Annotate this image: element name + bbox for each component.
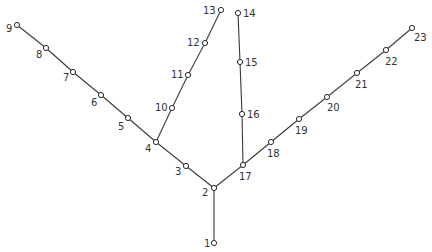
node-label-4: 4 bbox=[145, 143, 151, 154]
node-label-14: 14 bbox=[243, 8, 256, 19]
node-label-13: 13 bbox=[203, 5, 216, 16]
node-2 bbox=[211, 185, 216, 190]
edge-19-20 bbox=[299, 97, 327, 119]
node-15 bbox=[237, 59, 242, 64]
edge-17-16 bbox=[242, 114, 243, 165]
node-label-3: 3 bbox=[175, 166, 181, 177]
node-10 bbox=[169, 105, 174, 110]
edge-2-3 bbox=[186, 166, 214, 188]
node-label-6: 6 bbox=[91, 97, 97, 108]
node-13 bbox=[218, 7, 223, 12]
node-label-11: 11 bbox=[171, 69, 184, 80]
node-label-20: 20 bbox=[327, 102, 340, 113]
node-label-12: 12 bbox=[187, 37, 200, 48]
node-17 bbox=[240, 162, 245, 167]
node-12 bbox=[202, 40, 207, 45]
node-11 bbox=[185, 72, 190, 77]
edge-6-7 bbox=[73, 72, 101, 95]
node-8 bbox=[43, 45, 48, 50]
edge-20-21 bbox=[327, 73, 357, 97]
node-label-22: 22 bbox=[385, 56, 398, 67]
edge-8-9 bbox=[17, 25, 46, 48]
edge-4-5 bbox=[128, 118, 156, 142]
node-19 bbox=[296, 116, 301, 121]
node-label-23: 23 bbox=[414, 32, 427, 43]
node-6 bbox=[98, 92, 103, 97]
edge-3-4 bbox=[156, 142, 186, 166]
edge-21-22 bbox=[357, 50, 386, 73]
node-20 bbox=[324, 94, 329, 99]
node-7 bbox=[70, 69, 75, 74]
edge-layer bbox=[17, 10, 412, 243]
node-22 bbox=[383, 47, 388, 52]
edge-16-15 bbox=[240, 62, 242, 114]
node-label-15: 15 bbox=[245, 57, 258, 68]
node-5 bbox=[125, 115, 130, 120]
node-label-1: 1 bbox=[204, 238, 210, 249]
node-label-18: 18 bbox=[267, 148, 280, 159]
node-1 bbox=[211, 240, 216, 245]
node-23 bbox=[409, 25, 414, 30]
edge-7-8 bbox=[46, 48, 73, 72]
node-14 bbox=[235, 10, 240, 15]
node-9 bbox=[14, 22, 19, 27]
node-label-10: 10 bbox=[155, 102, 168, 113]
node-label-19: 19 bbox=[295, 125, 308, 136]
edge-5-6 bbox=[101, 95, 128, 118]
node-label-21: 21 bbox=[355, 79, 368, 90]
node-label-2: 2 bbox=[202, 187, 208, 198]
node-label-7: 7 bbox=[63, 72, 69, 83]
node-label-5: 5 bbox=[118, 121, 124, 132]
tree-diagram-svg: 1234567891011121314151617181920212223 bbox=[0, 0, 432, 252]
node-3 bbox=[183, 163, 188, 168]
node-label-8: 8 bbox=[36, 49, 42, 60]
node-label-16: 16 bbox=[247, 109, 260, 120]
node-label-9: 9 bbox=[6, 23, 12, 34]
edge-4-10 bbox=[156, 108, 172, 142]
node-4 bbox=[153, 139, 158, 144]
label-layer: 1234567891011121314151617181920212223 bbox=[6, 5, 427, 249]
edge-22-23 bbox=[386, 28, 412, 50]
node-18 bbox=[268, 139, 273, 144]
edge-15-14 bbox=[238, 13, 240, 62]
node-21 bbox=[354, 70, 359, 75]
node-label-17: 17 bbox=[239, 171, 252, 182]
node-16 bbox=[239, 111, 244, 116]
tree-diagram: 1234567891011121314151617181920212223 bbox=[0, 0, 432, 252]
